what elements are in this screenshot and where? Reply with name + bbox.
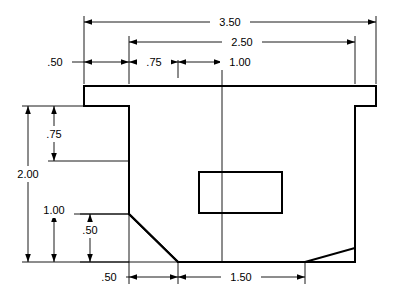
part-body-path xyxy=(84,86,376,262)
left-dimensions-group: 2.00 .75 1.00 .50 xyxy=(8,106,178,262)
part-outline-group xyxy=(84,86,376,262)
technical-drawing-canvas: 3.50 2.50 .50 .75 xyxy=(0,0,407,299)
dim-label-inner-width: 2.50 xyxy=(231,36,252,48)
inner-pocket-rect xyxy=(199,172,282,213)
dim-label-left-flange-width: .50 xyxy=(47,56,62,68)
dim-label-pocket-offset: 1.00 xyxy=(229,56,250,68)
dim-label-overall-width: 3.50 xyxy=(219,16,240,28)
arrow-0-50-left-b xyxy=(121,59,129,65)
dim-label-bottom-width: 1.50 xyxy=(230,271,251,283)
dim-label-left-offset: .75 xyxy=(146,56,161,68)
arrow-1-00-top-left xyxy=(178,59,186,65)
arrow-0-50-bottom-left xyxy=(129,274,137,280)
arrow-0-50-left-a xyxy=(84,59,92,65)
arrow-0-50v-bottom xyxy=(87,254,93,262)
arrow-2-00-top xyxy=(25,106,31,114)
arrow-1-50-left xyxy=(178,274,186,280)
dim-label-chamfer-width: .50 xyxy=(101,271,116,283)
arrow-0-50-bottom-right xyxy=(170,274,178,280)
arrow-0-75v-bottom xyxy=(51,153,57,161)
bottom-dimensions-group: .50 1.50 xyxy=(92,214,305,285)
dim-label-upper-height: .75 xyxy=(46,128,61,140)
arrow-3-50-right xyxy=(368,19,376,25)
dim-label-lower-height: 1.00 xyxy=(43,204,64,216)
arrow-2-50-left xyxy=(129,39,137,45)
arrow-0-50v-top xyxy=(87,214,93,222)
arrow-0-75-left xyxy=(129,59,137,65)
arrow-1-50-right xyxy=(297,274,305,280)
arrow-1-00v-bottom xyxy=(51,254,57,262)
part-outline-path xyxy=(84,86,376,262)
arrow-2-50-right xyxy=(347,39,355,45)
dim-label-chamfer-height: .50 xyxy=(82,224,97,236)
part-drawing-svg: 3.50 2.50 .50 .75 xyxy=(0,0,407,299)
arrow-3-50-left xyxy=(84,19,92,25)
arrow-0-75v-top xyxy=(51,106,57,114)
arrow-0-75-right xyxy=(170,59,178,65)
dim-label-overall-height: 2.00 xyxy=(17,168,38,180)
arrow-2-00-bottom xyxy=(25,254,31,262)
